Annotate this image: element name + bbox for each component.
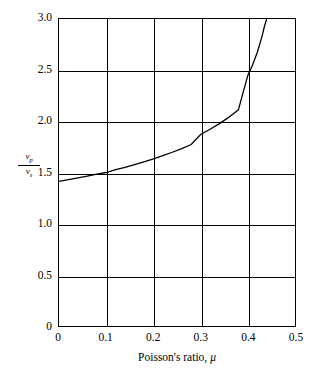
- x-axis-tick-label: 0: [55, 332, 61, 344]
- gridline-horizontal: [59, 174, 295, 175]
- gridline-horizontal: [59, 71, 295, 72]
- x-axis-tick-label: 0.2: [146, 332, 160, 344]
- y-axis-title-numerator: vp: [16, 152, 42, 164]
- gridline-horizontal: [59, 225, 295, 226]
- gridline-vertical: [249, 19, 250, 326]
- y-axis-tick-label: 0: [46, 321, 52, 333]
- data-curve: [59, 19, 295, 326]
- y-axis-title-denominator: vs: [16, 166, 42, 178]
- y-axis-title: vp vs: [16, 152, 42, 178]
- gridline-vertical: [107, 19, 108, 326]
- gridline-horizontal: [59, 122, 295, 123]
- y-axis-tick-label: 2.0: [38, 115, 52, 127]
- y-axis-tick-label: 2.5: [38, 64, 52, 76]
- x-axis-tick-label: 0.4: [241, 332, 255, 344]
- gridline-vertical: [202, 19, 203, 326]
- x-axis-tick-label: 0.5: [289, 332, 303, 344]
- y-axis-tick-label: 1.0: [38, 218, 52, 230]
- gridline-vertical: [154, 19, 155, 326]
- curve-path: [59, 19, 267, 181]
- x-axis-title: Poisson's ratio, μ: [58, 351, 296, 364]
- x-axis-tick-label: 0.1: [98, 332, 112, 344]
- x-axis-tick-label: 0.3: [194, 332, 208, 344]
- x-axis-tick-labels: 00.10.20.30.40.5: [58, 332, 296, 348]
- plot-area: [58, 18, 296, 327]
- gridline-horizontal: [59, 277, 295, 278]
- figure-canvas: 00.51.01.52.02.53.0 vp vs 00.10.20.30.40…: [0, 0, 327, 376]
- mu-symbol: μ: [210, 351, 216, 363]
- y-axis-tick-label: 0.5: [38, 270, 52, 282]
- y-axis-tick-label: 3.0: [38, 12, 52, 24]
